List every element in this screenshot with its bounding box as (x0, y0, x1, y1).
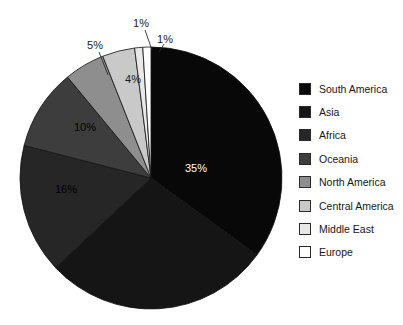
slice-value-label: 16% (55, 183, 77, 195)
legend-item-central-america[interactable]: Central America (299, 194, 403, 217)
legend-swatch-icon (299, 176, 311, 188)
slice-value-label: 4% (125, 73, 141, 85)
legend-item-label: Oceania (319, 153, 358, 165)
chart-legend: South AmericaAsiaAfricaOceaniaNorth Amer… (299, 77, 403, 264)
legend-item-label: Asia (319, 106, 339, 118)
legend-swatch-icon (299, 200, 311, 212)
legend-swatch-icon (299, 83, 311, 95)
legend-item-label: South America (319, 83, 387, 95)
legend-item-europe[interactable]: Europe (299, 241, 403, 264)
legend-swatch-icon (299, 129, 311, 141)
legend-swatch-icon (299, 153, 311, 165)
pie-chart-figure: 35%16%10%5%4%1%1% South AmericaAsiaAfric… (0, 0, 403, 325)
legend-swatch-icon (299, 223, 311, 235)
pie-slice-group (20, 47, 282, 309)
legend-swatch-icon (299, 106, 311, 118)
slice-value-label: 1% (157, 33, 173, 45)
slice-value-label: 5% (87, 39, 103, 51)
legend-item-africa[interactable]: Africa (299, 124, 403, 147)
legend-item-label: North America (319, 176, 386, 188)
legend-item-oceania[interactable]: Oceania (299, 147, 403, 170)
legend-item-middle-east[interactable]: Middle East (299, 217, 403, 240)
legend-item-asia[interactable]: Asia (299, 100, 403, 123)
legend-item-label: Africa (319, 129, 346, 141)
legend-item-label: Central America (319, 200, 394, 212)
legend-item-south-america[interactable]: South America (299, 77, 403, 100)
slice-value-label: 10% (74, 121, 96, 133)
legend-item-label: Europe (319, 246, 353, 258)
slice-value-label: 1% (133, 17, 149, 29)
legend-item-label: Middle East (319, 223, 374, 235)
legend-swatch-icon (299, 246, 311, 258)
legend-item-north-america[interactable]: North America (299, 171, 403, 194)
slice-value-label: 35% (185, 162, 207, 174)
